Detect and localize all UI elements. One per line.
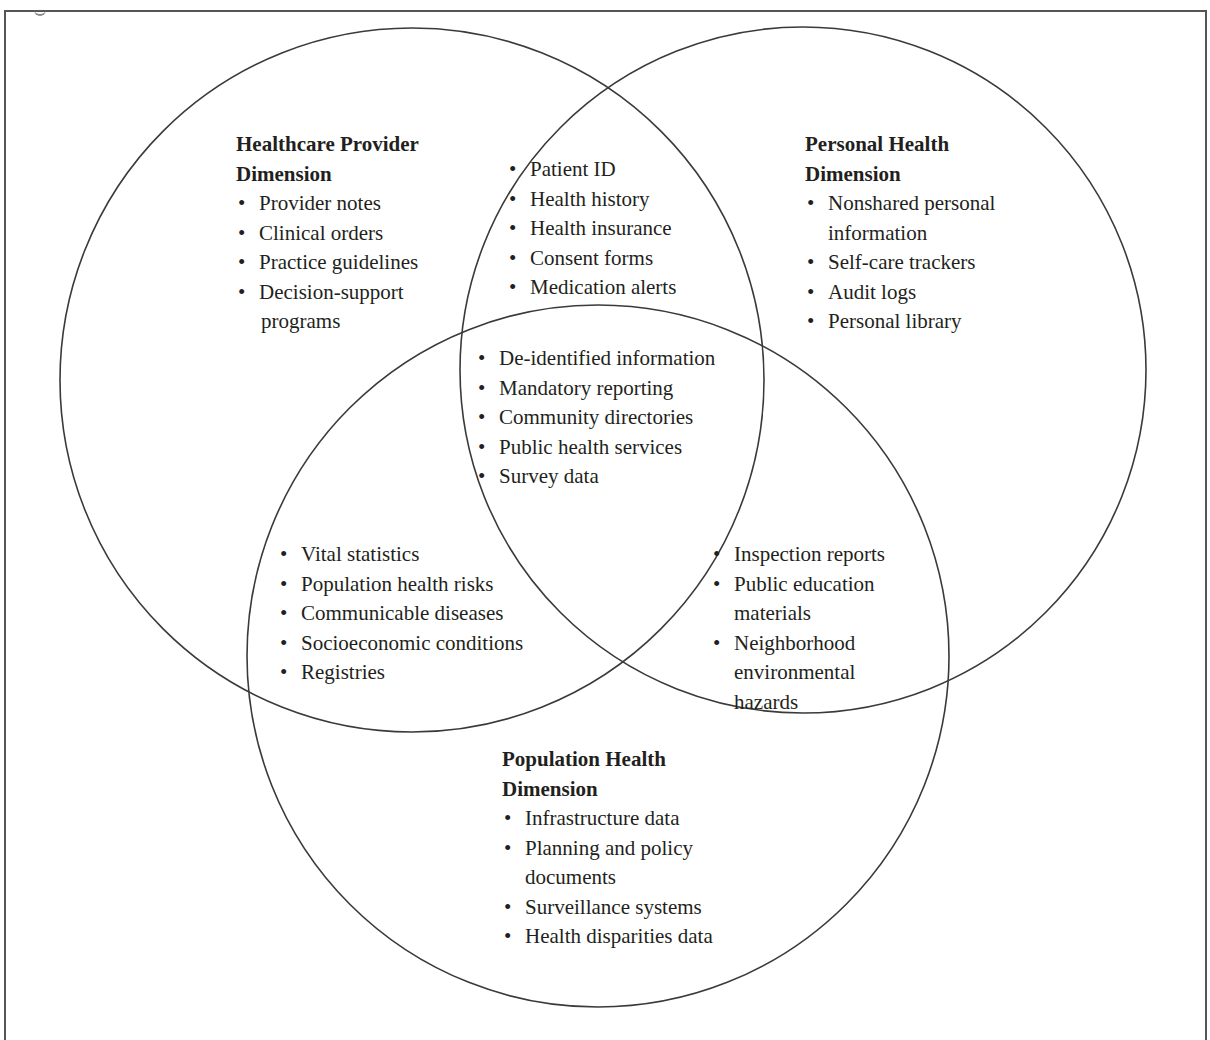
list-item: Registries <box>278 658 523 688</box>
provider-population-overlap-region: Vital statistics Population health risks… <box>278 540 523 688</box>
item-list: Provider notes Clinical orders Practice … <box>236 189 419 337</box>
list-item: Clinical orders <box>236 219 419 249</box>
item-list: Patient ID Health history Health insuran… <box>507 155 676 303</box>
list-item: Surveillance systems <box>502 893 713 923</box>
list-item: Personal library <box>805 307 995 337</box>
item-list: Infrastructure data Planning and policyd… <box>502 804 713 952</box>
list-item: Population health risks <box>278 570 523 600</box>
list-item: Socioeconomic conditions <box>278 629 523 659</box>
list-item: Mandatory reporting <box>476 374 715 404</box>
list-item: Nonshared personalinformation <box>805 189 995 248</box>
list-item: Practice guidelines <box>236 248 419 278</box>
list-item: Public educationmaterials <box>711 570 885 629</box>
list-item: Survey data <box>476 462 715 492</box>
healthcare-provider-region: Healthcare Provider Dimension Provider n… <box>236 130 419 337</box>
list-item: Neighborhoodenvironmentalhazards <box>711 629 885 718</box>
list-item: Community directories <box>476 403 715 433</box>
list-item: Health insurance <box>507 214 676 244</box>
list-item: Self-care trackers <box>805 248 995 278</box>
item-list: Vital statistics Population health risks… <box>278 540 523 688</box>
item-list: Nonshared personalinformation Self-care … <box>805 189 995 337</box>
title-line: Dimension <box>236 162 332 186</box>
list-item: Consent forms <box>507 244 676 274</box>
title-line: Healthcare Provider <box>236 132 419 156</box>
center-overlap-region: De-identified information Mandatory repo… <box>476 344 715 492</box>
list-item: Public health services <box>476 433 715 463</box>
list-item: Planning and policydocuments <box>502 834 713 893</box>
item-list: De-identified information Mandatory repo… <box>476 344 715 492</box>
list-item: Infrastructure data <box>502 804 713 834</box>
population-health-region: Population Health Dimension Infrastructu… <box>502 745 713 952</box>
region-title: Population Health Dimension <box>502 745 713 804</box>
list-item: Medication alerts <box>507 273 676 303</box>
list-item: Decision-supportprograms <box>236 278 419 337</box>
personal-population-overlap-region: Inspection reports Public educationmater… <box>711 540 885 717</box>
list-item: Health disparities data <box>502 922 713 952</box>
list-item: Inspection reports <box>711 540 885 570</box>
title-line: Population Health <box>502 747 666 771</box>
title-line: Dimension <box>502 777 598 801</box>
title-line: Personal Health <box>805 132 949 156</box>
region-title: Healthcare Provider Dimension <box>236 130 419 189</box>
list-item: Health history <box>507 185 676 215</box>
region-title: Personal Health Dimension <box>805 130 995 189</box>
item-list: Inspection reports Public educationmater… <box>711 540 885 717</box>
list-item: Audit logs <box>805 278 995 308</box>
list-item: De-identified information <box>476 344 715 374</box>
list-item: Provider notes <box>236 189 419 219</box>
list-item: Vital statistics <box>278 540 523 570</box>
title-line: Dimension <box>805 162 901 186</box>
provider-personal-overlap-region: Patient ID Health history Health insuran… <box>507 155 676 303</box>
list-item: Communicable diseases <box>278 599 523 629</box>
personal-health-region: Personal Health Dimension Nonshared pers… <box>805 130 995 337</box>
list-item: Patient ID <box>507 155 676 185</box>
